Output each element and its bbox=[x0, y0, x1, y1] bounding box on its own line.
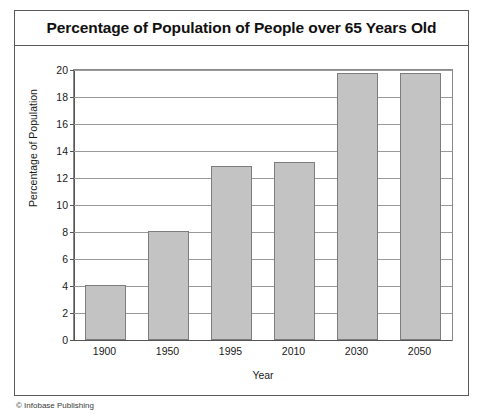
x-tick-label-2030: 2030 bbox=[345, 345, 368, 357]
y-tick-mark-0 bbox=[70, 340, 74, 341]
chart-title-bar: Percentage of Population of People over … bbox=[15, 11, 468, 46]
x-tick-label-1900: 1900 bbox=[93, 345, 116, 357]
bar-1900 bbox=[85, 285, 127, 340]
x-tick-label-2050: 2050 bbox=[408, 345, 431, 357]
chart-body: Percentage of Population 024681012141618… bbox=[15, 46, 468, 395]
y-tick-label-10: 10 bbox=[56, 199, 68, 211]
y-tick-label-4: 4 bbox=[62, 280, 68, 292]
x-axis-tick-labels: 190019501995201020302050 bbox=[73, 345, 453, 363]
y-tick-label-20: 20 bbox=[56, 64, 68, 76]
x-axis-title: Year bbox=[73, 369, 453, 381]
bar-1950 bbox=[148, 231, 190, 340]
bars-layer bbox=[74, 70, 452, 340]
bar-2010 bbox=[274, 162, 316, 340]
bar-1995 bbox=[211, 166, 253, 340]
plot-area: 02468101214161820 bbox=[73, 69, 453, 341]
y-tick-label-18: 18 bbox=[56, 91, 68, 103]
x-tick-label-2010: 2010 bbox=[282, 345, 305, 357]
y-tick-label-0: 0 bbox=[62, 334, 68, 346]
y-tick-label-8: 8 bbox=[62, 226, 68, 238]
x-tick-label-1950: 1950 bbox=[156, 345, 179, 357]
page-title: Percentage of Population of People over … bbox=[47, 19, 437, 37]
y-tick-label-2: 2 bbox=[62, 307, 68, 319]
x-tick-label-1995: 1995 bbox=[219, 345, 242, 357]
bar-2050 bbox=[400, 73, 442, 340]
chart-figure: Percentage of Population of People over … bbox=[14, 10, 469, 396]
y-tick-label-12: 12 bbox=[56, 172, 68, 184]
y-tick-label-6: 6 bbox=[62, 253, 68, 265]
publisher-credit: © Infobase Publishing bbox=[16, 401, 94, 410]
y-tick-label-14: 14 bbox=[56, 145, 68, 157]
y-axis-title: Percentage of Population bbox=[27, 68, 39, 228]
y-tick-label-16: 16 bbox=[56, 118, 68, 130]
bar-2030 bbox=[337, 73, 379, 340]
gridline-0 bbox=[74, 340, 452, 341]
